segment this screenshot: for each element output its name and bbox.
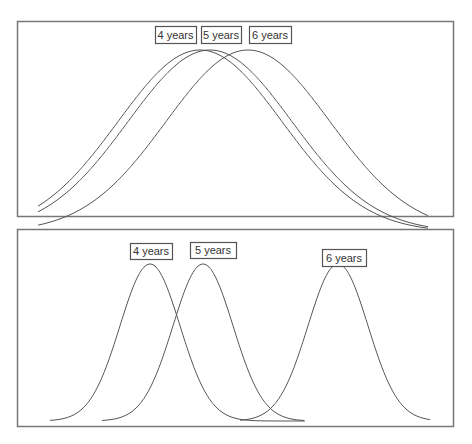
label-4-years: 4 years [131, 244, 173, 260]
label-4-years: 4 years [156, 27, 197, 44]
panel-narrow-separated: 4 years5 years6 years [18, 230, 454, 427]
series-labels: 4 years5 years6 years [156, 27, 292, 44]
label-5-years: 5 years [202, 27, 242, 44]
svg-text:4 years: 4 years [157, 29, 194, 41]
svg-text:6 years: 6 years [326, 252, 363, 264]
curves [50, 264, 430, 421]
curve-4-years [38, 50, 428, 228]
label-6-years: 6 years [323, 250, 367, 267]
label-5-years: 5 years [191, 243, 237, 259]
plot-frame [18, 22, 454, 217]
svg-text:4 years: 4 years [133, 245, 170, 257]
svg-text:6 years: 6 years [252, 29, 289, 41]
curve-5-years [38, 50, 428, 227]
curves [38, 50, 428, 228]
curve-5-years [102, 264, 304, 420]
svg-text:5 years: 5 years [203, 29, 240, 41]
panel-wide-overlap: 4 years5 years6 years [18, 22, 454, 229]
chart-canvas: 4 years5 years6 years 4 years5 years6 ye… [0, 0, 472, 444]
curve-6-years [38, 50, 428, 225]
svg-text:5 years: 5 years [195, 244, 232, 256]
label-6-years: 6 years [250, 27, 292, 44]
curve-6-years [240, 264, 430, 420]
series-labels: 4 years5 years6 years [131, 243, 367, 267]
curve-4-years [50, 264, 305, 421]
